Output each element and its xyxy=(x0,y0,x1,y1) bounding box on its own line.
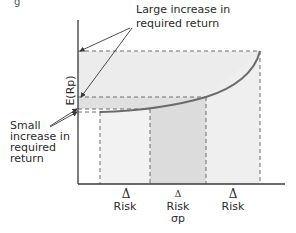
large-increase-arrow-top xyxy=(80,28,130,51)
x-tick-label-3: Risk xyxy=(213,201,253,213)
x-tick-label-1: Risk xyxy=(105,201,145,213)
region-second-risk xyxy=(150,97,206,184)
large-increase-line-1: Large increase in xyxy=(136,4,230,15)
large-increase-annotation: Large increase in required return xyxy=(136,4,230,29)
risk-return-diagram: g xyxy=(0,0,296,233)
small-increase-line-4: return xyxy=(10,153,70,164)
delta-symbol-2: Δ xyxy=(170,189,186,199)
delta-symbol-1: Δ xyxy=(118,187,134,201)
x-tick-sub-2: σp xyxy=(158,213,198,225)
large-increase-line-2: required return xyxy=(136,18,230,29)
delta-symbol-3: Δ xyxy=(225,187,241,201)
diagram-canvas xyxy=(0,0,296,233)
small-increase-annotation: Small increase in required return xyxy=(10,120,70,164)
region-first-risk xyxy=(100,110,150,184)
y-axis-label: E(Rp) xyxy=(64,71,77,111)
